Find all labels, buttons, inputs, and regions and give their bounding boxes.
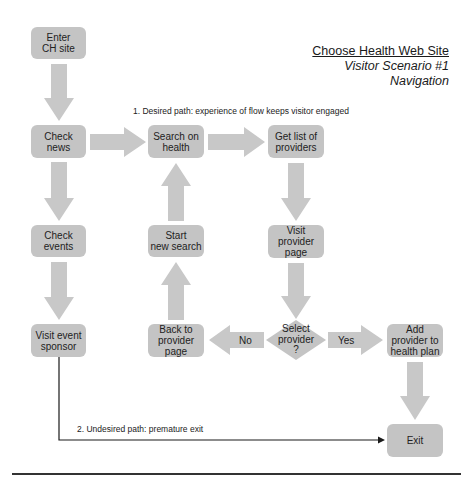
arrow-up-back-to-start bbox=[161, 262, 191, 320]
arrow-down-news-to-events bbox=[44, 162, 74, 221]
node-add-provider-to-health-plan: Add provider to health plan bbox=[387, 324, 443, 357]
node-get-list-of-providers: Get list of providers bbox=[268, 125, 324, 158]
arrow-down-enter-to-news bbox=[44, 64, 74, 121]
node-enter-ch-site: Enter CH site bbox=[31, 27, 86, 59]
node-visit-event-sponsor: Visit event sponsor bbox=[31, 324, 86, 357]
node-check-events: Check events bbox=[31, 225, 86, 257]
arrow-down-events-to-sponsor bbox=[44, 262, 74, 320]
undesired-path-label: 2. Undesired path: premature exit bbox=[77, 424, 203, 434]
arrow-right-yes bbox=[328, 325, 383, 355]
edge-label-yes: Yes bbox=[338, 335, 354, 346]
node-back-to-provider-page: Back to provider page bbox=[148, 324, 204, 357]
diagram-subtitle: Visitor Scenario #1 bbox=[344, 59, 449, 74]
arrow-right-news-to-search bbox=[90, 127, 146, 157]
diagram-title: Choose Health Web Site bbox=[312, 44, 449, 59]
arrow-down-visit-to-select bbox=[281, 263, 311, 319]
node-search-on-health: Search on health bbox=[148, 125, 204, 158]
node-check-news: Check news bbox=[31, 125, 86, 158]
node-start-new-search: Start new search bbox=[148, 225, 204, 257]
node-exit: Exit bbox=[387, 424, 443, 457]
decision-select-provider: Select provider ? bbox=[266, 324, 326, 356]
arrow-down-list-to-visit bbox=[281, 163, 311, 221]
edge-label-no: No bbox=[239, 335, 252, 346]
diagram-section: Navigation bbox=[390, 74, 449, 89]
bottom-rule bbox=[12, 473, 461, 475]
arrow-down-add-to-exit bbox=[400, 362, 430, 420]
undesired-path-arrowhead bbox=[378, 437, 385, 444]
arrow-left-no bbox=[209, 325, 264, 355]
arrow-up-start-to-search bbox=[161, 163, 191, 221]
desired-path-label: 1. Desired path: experience of flow keep… bbox=[133, 106, 349, 116]
node-visit-provider-page: Visit provider page bbox=[268, 225, 324, 258]
arrow-right-search-to-list bbox=[208, 127, 265, 157]
